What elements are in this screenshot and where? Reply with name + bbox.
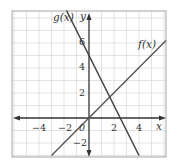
y-axis-up-arrow-icon xyxy=(87,13,92,20)
g-line xyxy=(67,11,140,156)
x-axis-label: x xyxy=(156,120,162,132)
coordinate-plane: −4 −2 0 2 4 x 6 4 2 −2 y g(x) f(x) xyxy=(0,0,177,166)
y-tick-2: 2 xyxy=(79,87,85,98)
x-tick-4: 4 xyxy=(136,122,142,133)
f-function-label: f(x) xyxy=(137,38,156,50)
y-tick-6: 6 xyxy=(79,36,85,47)
y-tick-neg2: −2 xyxy=(73,137,87,148)
origin-label: 0 xyxy=(79,122,85,133)
x-tick-neg2: −2 xyxy=(58,122,72,133)
y-axis xyxy=(87,13,92,157)
y-axis-label: y xyxy=(79,10,87,22)
x-tick-2: 2 xyxy=(111,122,117,133)
f-line xyxy=(52,41,167,156)
y-tick-4: 4 xyxy=(79,61,85,72)
g-function-label: g(x) xyxy=(53,11,74,23)
y-axis-down-arrow-icon xyxy=(87,150,92,157)
x-tick-neg4: −4 xyxy=(32,122,46,133)
